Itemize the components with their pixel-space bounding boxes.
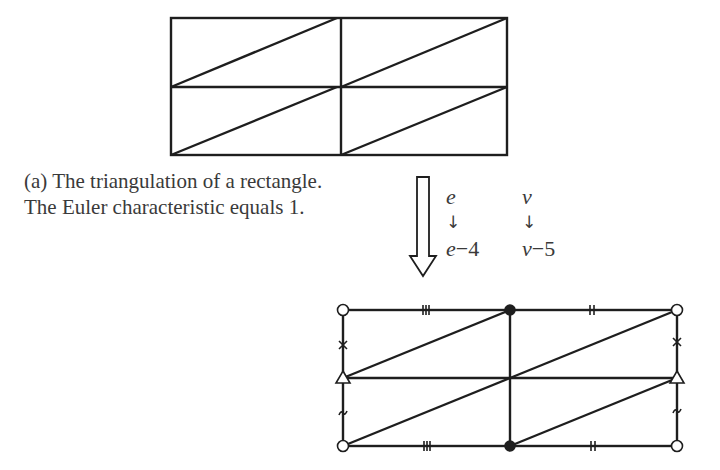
filled-circle-vertex-bottom-mid <box>505 441 515 451</box>
vertex-op: −5 <box>532 236 555 261</box>
vertex-var: v <box>522 236 532 261</box>
edge-count-before: e <box>446 184 456 210</box>
filled-circle-vertex-top-mid <box>505 305 515 315</box>
bottom-triangulation <box>343 310 677 446</box>
caption-line-2: The Euler characteristic equals 1. <box>24 194 322 220</box>
edge-down-arrow-icon: ↓ <box>446 212 460 232</box>
open-circle-vertex-bottom-right <box>672 441 683 452</box>
vertex-count-before: v <box>522 184 532 210</box>
open-circle-vertex-bottom-left <box>338 441 349 452</box>
open-circle-vertex-top-right <box>672 305 683 316</box>
vertex-down-arrow-icon: ↓ <box>522 212 536 232</box>
edge-var: e <box>446 236 456 261</box>
diagram-canvas <box>0 0 720 470</box>
hollow-down-arrow-icon <box>410 177 436 276</box>
caption-line-1: (a) The triangulation of a rectangle. <box>24 168 322 194</box>
edge-op: −4 <box>456 236 479 261</box>
open-circle-vertex-top-left <box>338 305 349 316</box>
figure-caption: (a) The triangulation of a rectangle. Th… <box>24 168 322 220</box>
edge-count-after: e−4 <box>446 236 479 262</box>
top-triangulation <box>171 18 507 155</box>
vertex-count-after: v−5 <box>522 236 555 262</box>
